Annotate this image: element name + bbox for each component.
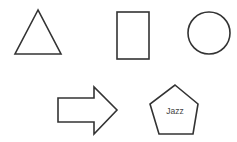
- pentagon-label: Jazz: [166, 106, 183, 116]
- rectangle-shape[interactable]: [117, 12, 149, 59]
- diagram-canvas: Jazz: [0, 0, 237, 142]
- right-arrow-shape[interactable]: [58, 87, 117, 134]
- triangle-shape[interactable]: [15, 10, 61, 54]
- circle-shape[interactable]: [188, 12, 230, 54]
- pentagon-shape[interactable]: Jazz: [150, 85, 198, 134]
